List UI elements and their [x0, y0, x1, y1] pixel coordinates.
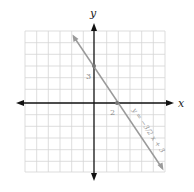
- y-intercept-point: [92, 64, 96, 68]
- coordinate-plane: x y 3 2 y = −3/2 x + 3: [0, 0, 194, 192]
- grid: [25, 31, 165, 172]
- arrow-up-icon: [91, 23, 97, 31]
- y-axis-label: y: [89, 7, 97, 20]
- x-axis-label: x: [178, 97, 185, 110]
- x-axis: [16, 100, 174, 106]
- x-intercept-point: [115, 101, 119, 105]
- arrow-line-start-icon: [73, 35, 79, 43]
- arrow-down-icon: [91, 173, 97, 181]
- y-intercept-label: 3: [86, 72, 91, 81]
- y-axis: [91, 23, 97, 181]
- arrow-left-icon: [16, 100, 24, 106]
- x-intercept-label: 2: [110, 108, 115, 117]
- arrow-right-icon: [166, 100, 174, 106]
